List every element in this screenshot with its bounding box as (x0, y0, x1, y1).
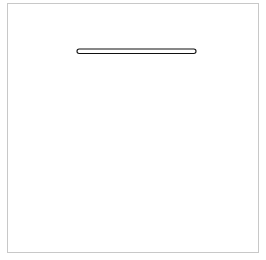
correct-base-bar (77, 49, 196, 54)
diagram-canvas (0, 0, 266, 260)
correct-fringe (77, 49, 196, 54)
